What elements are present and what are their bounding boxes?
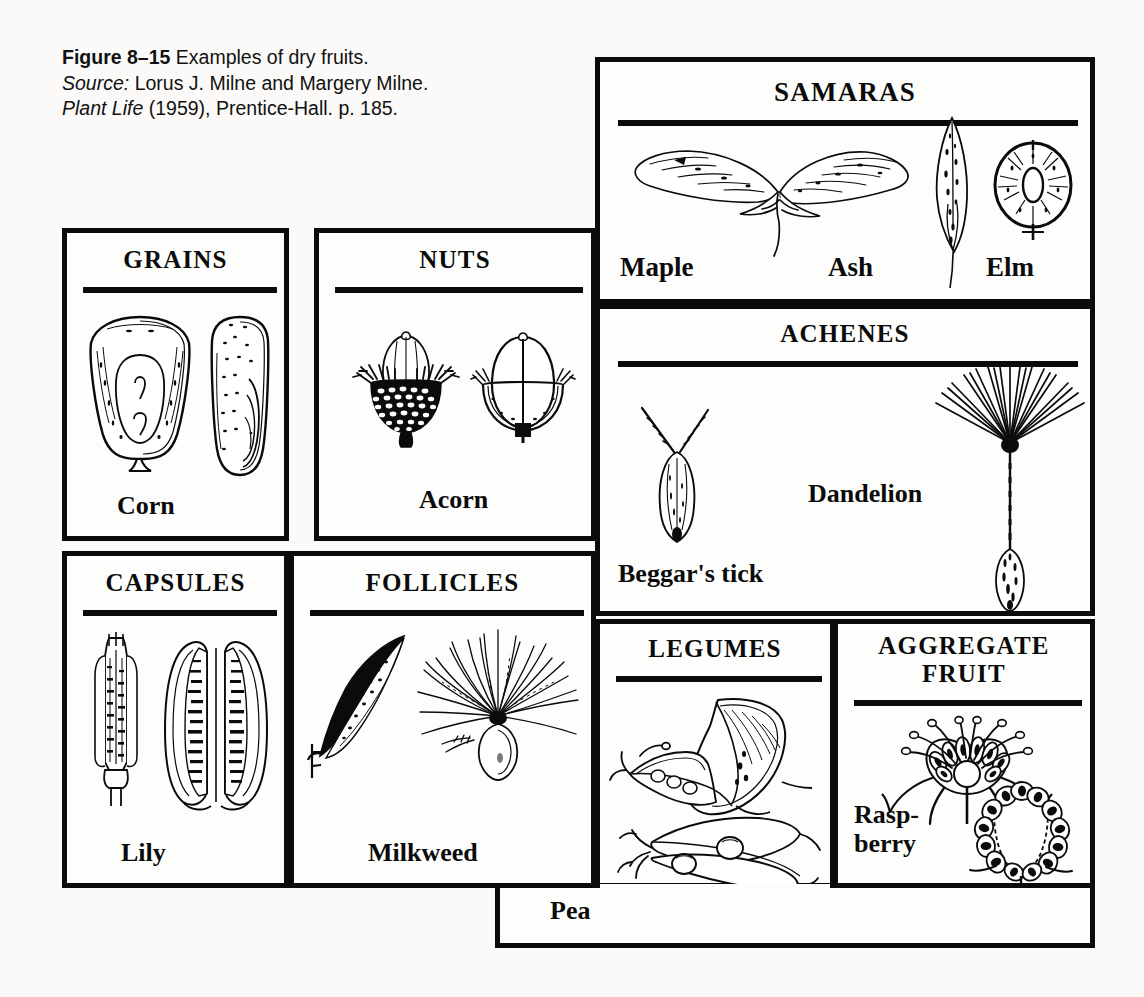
panel-title-aggregate-fruit: AGGREGATE FRUIT [838, 632, 1090, 688]
panel-aggregate-fruit: AGGREGATE FRUIT [833, 619, 1095, 888]
label-dandelion: Dandelion [808, 479, 922, 508]
illustration-lily-split [155, 634, 277, 814]
label-ash: Ash [828, 252, 873, 282]
illustration-beggars-tick [622, 404, 732, 549]
illustration-corn-side [207, 313, 273, 481]
illustration-corn-face [85, 311, 195, 471]
source-authors: Lorus J. Milne and Margery Milne. [135, 72, 429, 94]
title-rule [335, 287, 583, 293]
source-title: Plant Life [62, 97, 143, 119]
panel-title-legumes: LEGUMES [600, 636, 830, 662]
illustration-lily-closed [85, 630, 147, 810]
panel-achenes: ACHENES [595, 304, 1095, 616]
label-lily: Lily [121, 838, 166, 867]
panel-title-achenes: ACHENES [600, 321, 1090, 347]
illustration-acorn-whole [349, 329, 464, 449]
title-rule [83, 287, 277, 293]
panel-legumes: LEGUMES [595, 619, 835, 888]
illustration-dandelion [930, 367, 1090, 612]
illustration-maple [628, 134, 918, 259]
illustration-raspberry-fruit-section [956, 782, 1086, 886]
panel-follicles: FOLLICLES [289, 551, 596, 888]
panel-title-follicles: FOLLICLES [294, 570, 591, 596]
title-rule [310, 610, 584, 616]
panel-capsules: CAPSULES [62, 551, 289, 888]
label-beggars-tick: Beggar's tick [618, 559, 763, 588]
title-rule [854, 700, 1082, 706]
label-maple: Maple [620, 252, 694, 282]
label-milkweed: Milkweed [368, 838, 478, 867]
label-corn: Corn [117, 491, 175, 520]
illustration-milkweed-pod [308, 632, 418, 782]
title-rule [83, 610, 277, 616]
illustration-milkweed-seed [412, 624, 587, 784]
extension-seam-mask [600, 884, 830, 894]
label-raspberry: Rasp- berry [854, 800, 919, 858]
label-pea: Pea [550, 896, 590, 925]
figure-stage: Figure 8–15 Examples of dry fruits. Sour… [0, 0, 1144, 997]
illustration-elm [978, 128, 1088, 248]
panel-title-samaras: SAMARAS [600, 78, 1090, 106]
label-elm: Elm [986, 252, 1034, 282]
source-prefix: Source: [62, 72, 129, 94]
title-rule [616, 676, 822, 682]
label-acorn: Acorn [419, 485, 488, 514]
panel-legumes-pea-extension: Pea [495, 888, 1095, 948]
title-rule [618, 120, 1078, 126]
figure-caption: Figure 8–15 Examples of dry fruits. Sour… [62, 45, 582, 122]
panel-title-capsules: CAPSULES [67, 570, 284, 596]
panel-nuts: NUTS [314, 228, 596, 541]
source-rest: (1959), Prentice-Hall. p. 185. [149, 97, 398, 119]
illustration-acorn-section [471, 329, 576, 449]
illustration-pea-pod-open [610, 690, 825, 830]
illustration-ash [922, 112, 982, 290]
figure-caption-text: Examples of dry fruits. [176, 46, 369, 68]
panel-title-nuts: NUTS [319, 247, 591, 273]
panel-title-grains: GRAINS [67, 247, 284, 273]
figure-number: Figure 8–15 [62, 46, 170, 68]
panel-samaras: SAMARAS [595, 57, 1095, 304]
panel-grains: GRAINS [62, 228, 289, 541]
